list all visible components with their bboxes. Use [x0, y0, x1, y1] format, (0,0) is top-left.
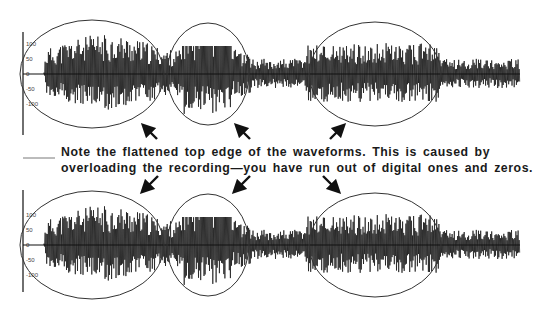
axis-tick-label: 50 [26, 227, 33, 233]
caption-line-1: Note the flattened top edge of the wavef… [61, 145, 531, 161]
caption-line-2: overloading the recording—you have run o… [61, 161, 531, 177]
bottom-waveform [23, 206, 520, 285]
axis-tick-label: 50 [26, 56, 33, 62]
top-waveform [23, 35, 520, 114]
top-arrows [146, 128, 341, 139]
arrow-down-left-icon [145, 176, 158, 189]
arrow-up-right-icon [330, 128, 341, 139]
waveform-trace [44, 35, 520, 114]
arrow-down-left-icon [237, 176, 250, 189]
axis-tick-label: -50 [26, 257, 35, 263]
arrow-down-right-icon [323, 176, 336, 189]
bottom-arrows [145, 176, 336, 189]
arrow-up-left-icon [239, 128, 250, 139]
caption: Note the flattened top edge of the wavef… [61, 145, 531, 176]
waveform-trace [44, 206, 520, 285]
axis-tick-label: -50 [26, 86, 35, 92]
arrow-up-left-icon [146, 128, 157, 139]
